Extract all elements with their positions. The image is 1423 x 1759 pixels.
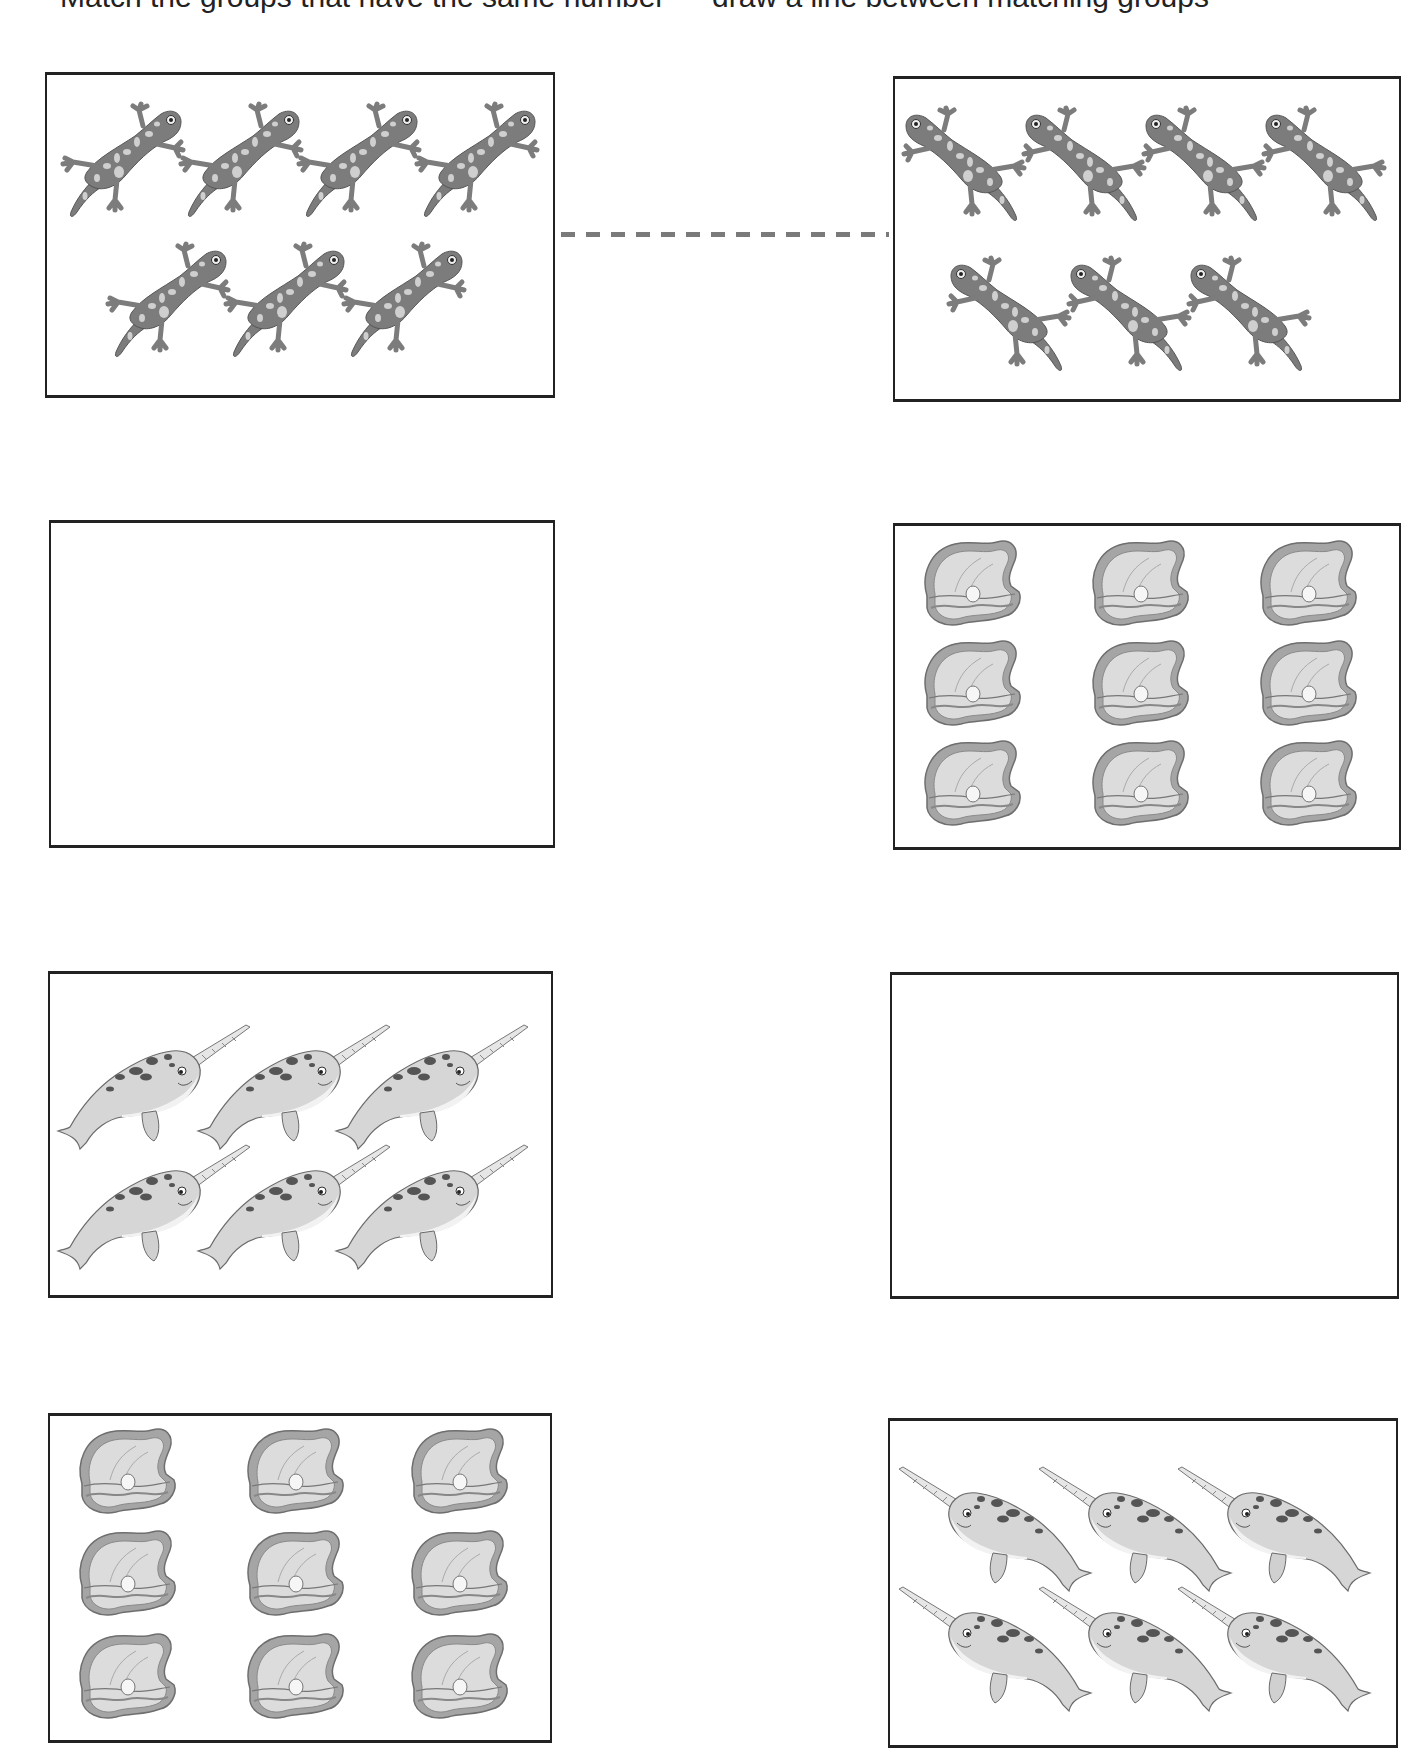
clam-icon — [1251, 636, 1363, 731]
matching-connector-line — [561, 232, 889, 237]
salamander-icon — [1020, 104, 1150, 229]
picture-box-left-3-narwhal-group[interactable] — [48, 971, 553, 1298]
clam-icon — [1083, 636, 1195, 731]
picture-box-left-1-salamander-group[interactable] — [45, 72, 555, 398]
clam-icon — [1251, 736, 1363, 831]
narwhal-icon — [1173, 1581, 1378, 1716]
salamander-icon — [1140, 104, 1270, 229]
clam-icon — [70, 1629, 182, 1724]
clam-icon — [915, 636, 1027, 731]
clam-icon — [238, 1424, 350, 1519]
clam-icon — [238, 1526, 350, 1621]
clam-icon — [402, 1629, 514, 1724]
clam-icon — [70, 1424, 182, 1519]
clam-icon — [1251, 536, 1363, 631]
salamander-icon — [293, 100, 423, 225]
picture-box-left-4-clam-group[interactable] — [48, 1413, 552, 1743]
picture-box-right-4-narwhal-group[interactable] — [888, 1418, 1398, 1748]
clam-icon — [70, 1526, 182, 1621]
clam-icon — [915, 536, 1027, 631]
salamander-icon — [1065, 254, 1195, 379]
salamander-icon — [220, 240, 350, 365]
picture-box-right-1-salamander-group[interactable] — [893, 76, 1401, 402]
salamander-icon — [945, 254, 1075, 379]
clam-icon — [402, 1526, 514, 1621]
salamander-icon — [338, 240, 468, 365]
narwhal-icon — [1173, 1461, 1378, 1596]
salamander-icon — [1185, 254, 1315, 379]
salamander-icon — [1260, 104, 1390, 229]
salamander-icon — [900, 104, 1030, 229]
clam-icon — [1083, 536, 1195, 631]
salamander-icon — [57, 100, 187, 225]
picture-box-right-2-clam-group[interactable] — [893, 523, 1401, 850]
salamander-icon — [411, 100, 541, 225]
clam-icon — [1083, 736, 1195, 831]
salamander-icon — [175, 100, 305, 225]
salamander-icon — [102, 240, 232, 365]
picture-box-left-2-empty[interactable] — [49, 520, 555, 848]
picture-box-right-3-empty[interactable] — [890, 972, 1399, 1299]
narwhal-icon — [328, 1019, 533, 1154]
instruction-header: Match the groups that have the same numb… — [0, 0, 1423, 14]
clam-icon — [402, 1424, 514, 1519]
clam-icon — [915, 736, 1027, 831]
narwhal-icon — [328, 1139, 533, 1274]
clam-icon — [238, 1629, 350, 1724]
